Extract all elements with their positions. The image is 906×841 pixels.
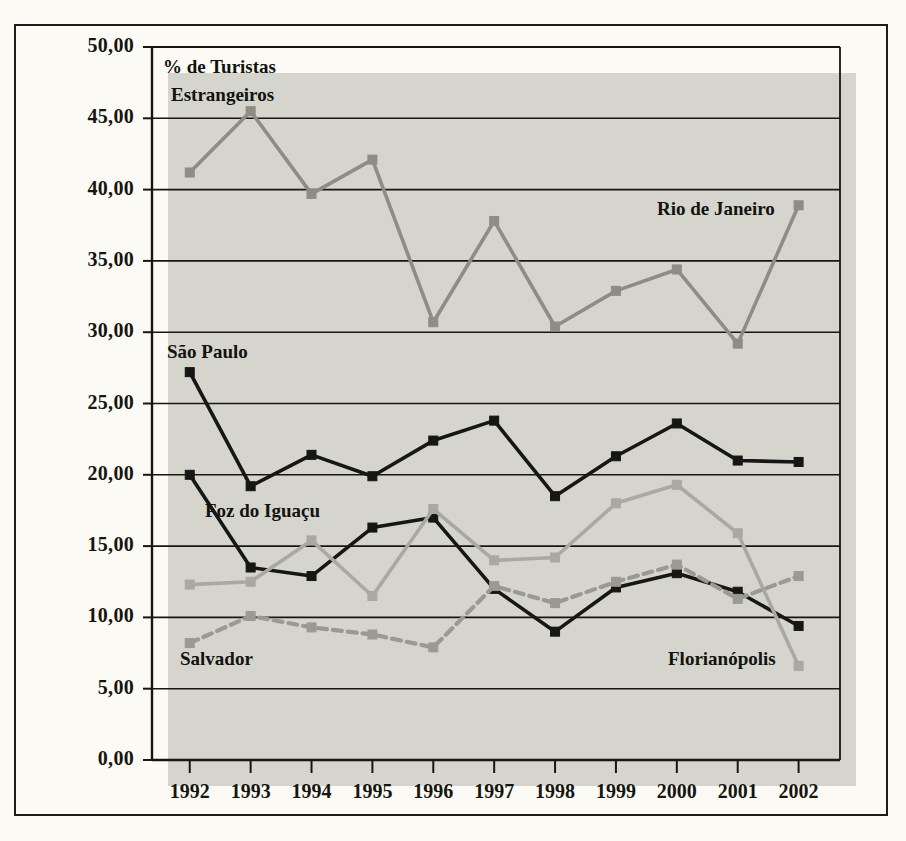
y-tick-label: 0,00 bbox=[40, 747, 134, 770]
y-tick-label: 20,00 bbox=[40, 462, 134, 485]
y-tick-label: 50,00 bbox=[40, 34, 134, 57]
y-tick-label: 15,00 bbox=[40, 533, 134, 556]
x-tick-label: 1992 bbox=[155, 780, 225, 803]
y-tick-label: 40,00 bbox=[40, 177, 134, 200]
axis-title: % de Turistas Estrangeiros bbox=[163, 53, 276, 108]
series-label-foz-do-iguacu: Foz do Iguaçu bbox=[205, 500, 320, 522]
y-tick-label: 25,00 bbox=[40, 391, 134, 414]
y-tick-label: 30,00 bbox=[40, 319, 134, 342]
x-tick-label: 2002 bbox=[764, 780, 834, 803]
x-tick-label: 2000 bbox=[642, 780, 712, 803]
series-label-florianopolis: Florianópolis bbox=[668, 648, 776, 670]
axis-title-line1: % de Turistas bbox=[163, 53, 276, 81]
x-tick-label: 1993 bbox=[216, 780, 286, 803]
chart-frame bbox=[14, 24, 888, 816]
axis-title-line2: Estrangeiros bbox=[171, 81, 276, 109]
chart-figure: 50,0045,0040,0035,0030,0025,0020,0015,00… bbox=[0, 0, 906, 841]
x-tick-label: 1995 bbox=[337, 780, 407, 803]
x-tick-label: 2001 bbox=[703, 780, 773, 803]
y-tick-label: 35,00 bbox=[40, 248, 134, 271]
x-tick-label: 1999 bbox=[581, 780, 651, 803]
series-label-salvador: Salvador bbox=[180, 648, 253, 670]
y-tick-label: 5,00 bbox=[40, 676, 134, 699]
y-tick-label: 45,00 bbox=[40, 105, 134, 128]
x-tick-label: 1997 bbox=[459, 780, 529, 803]
series-label-sao-paulo: São Paulo bbox=[167, 341, 248, 363]
y-tick-label: 10,00 bbox=[40, 604, 134, 627]
x-tick-label: 1994 bbox=[277, 780, 347, 803]
x-tick-label: 1996 bbox=[398, 780, 468, 803]
plot-area bbox=[168, 73, 856, 786]
x-tick-label: 1998 bbox=[520, 780, 590, 803]
series-label-rio-de-janeiro: Rio de Janeiro bbox=[657, 198, 775, 220]
